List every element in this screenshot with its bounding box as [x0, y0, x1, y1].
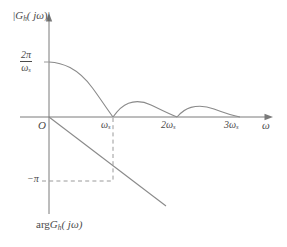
magnitude-axis-label-bar-right: )| [44, 9, 50, 21]
phase-axis-label-g: G [50, 218, 58, 230]
y-tick-peak-denominator: ωs [20, 63, 32, 74]
x-tick-3ws-sub: s [236, 123, 239, 130]
magnitude-curve-main-lobe [49, 62, 113, 117]
y-tick-peak-value: 2π ωs [20, 50, 32, 74]
magnitude-axis-label-arg: ( j [27, 9, 36, 21]
magnitude-axis-label-omega: ω [36, 9, 44, 21]
magnitude-axis-label: |Gh( jω)| [13, 10, 50, 23]
phase-axis-label-rest: ( j [61, 218, 70, 230]
x-tick-ws-sub: s [108, 123, 111, 130]
phase-axis-label-close: ) [79, 218, 83, 230]
origin-label: O [38, 120, 46, 131]
y-tick-peak-denominator-sub: s [28, 66, 31, 73]
phase-axis-label-omega: ω [71, 218, 79, 230]
x-tick-2ws-base: ω [166, 119, 173, 130]
magnitude-axis-label-g: G [15, 9, 23, 21]
x-tick-3ws-base: ω [229, 119, 236, 130]
magnitude-curve-side-lobe-1 [113, 102, 177, 117]
x-tick-ws-base: ω [101, 119, 108, 130]
phase-axis-label: argGh( jω) [36, 219, 82, 232]
y-tick-peak-numerator: 2π [20, 50, 32, 61]
magnitude-curve-side-lobe-2 [177, 106, 240, 117]
x-tick-label-3ws: 3ωs [224, 120, 239, 131]
x-tick-label-ws: ωs [101, 120, 111, 131]
x-axis-label: ω [262, 120, 270, 131]
x-tick-label-2ws: 2ωs [161, 120, 176, 131]
x-tick-2ws-sub: s [173, 123, 176, 130]
phase-axis-label-arg: arg [36, 218, 50, 230]
y-tick-label-neg-pi: −π [27, 174, 39, 184]
zero-order-hold-frequency-response-figure: |Gh( jω)| 2π ωs O ωs 2ωs 3ωs ω −π argGh(… [0, 0, 287, 247]
